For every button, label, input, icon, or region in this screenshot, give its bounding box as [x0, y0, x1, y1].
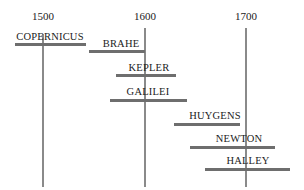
tick-label-1700: 1700 [235, 10, 257, 22]
bar-newton [190, 146, 275, 149]
bar-huygens [174, 123, 240, 126]
gridline-1500 [42, 34, 44, 187]
bar-kepler [116, 74, 176, 77]
bar-galilei [110, 99, 187, 102]
bar-halley [205, 168, 290, 171]
label-galilei: GALILEI [127, 86, 170, 97]
label-halley: HALLEY [226, 155, 269, 166]
bar-brahe [89, 50, 145, 53]
label-kepler: KEPLER [129, 62, 170, 73]
tick-label-1500: 1500 [32, 10, 54, 22]
label-newton: NEWTON [216, 133, 263, 144]
label-copernicus: COPERNICUS [16, 31, 83, 42]
bar-copernicus [15, 43, 86, 46]
tick-label-1600: 1600 [134, 10, 156, 22]
label-huygens: HUYGENS [189, 110, 241, 121]
label-brahe: BRAHE [103, 38, 140, 49]
